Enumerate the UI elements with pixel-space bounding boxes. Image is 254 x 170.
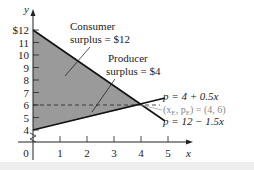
svg-text:5: 5 [165, 147, 171, 159]
y-axis-arrow-icon [31, 9, 36, 16]
svg-text:2: 2 [84, 147, 90, 159]
producer-surplus-label-line1: Producer [108, 52, 148, 64]
svg-text:$12: $12 [13, 24, 30, 36]
svg-text:5: 5 [24, 112, 30, 124]
svg-text:0: 0 [23, 147, 29, 159]
svg-text:6: 6 [24, 99, 30, 111]
consumer-surplus-label-line1: Consumer [70, 20, 116, 32]
svg-text:10: 10 [18, 49, 30, 61]
svg-text:8: 8 [24, 74, 30, 86]
axis-break-icon [30, 133, 36, 142]
svg-text:4: 4 [24, 124, 30, 136]
supply-equation-label: p = 4 + 0.5x [162, 90, 219, 102]
x-axis-arrow-icon [186, 140, 193, 145]
svg-text:7: 7 [24, 87, 30, 99]
svg-text:3: 3 [111, 147, 117, 159]
bottom-band [0, 162, 254, 170]
x-axis-label: x [185, 147, 191, 159]
producer-surplus-label-line2: surplus = $4 [106, 65, 161, 77]
x-tick-labels: 0 1 2 3 4 5 [23, 147, 171, 159]
y-axis-label: y [23, 3, 29, 15]
surplus-chart: $12 11 10 9 8 7 6 5 4 0 1 2 3 4 5 x y Co… [0, 0, 254, 170]
y-tick-labels: $12 11 10 9 8 7 6 5 4 [13, 24, 30, 136]
svg-text:4: 4 [138, 147, 144, 159]
x-ticks [60, 136, 168, 142]
svg-text:1: 1 [57, 147, 63, 159]
svg-text:11: 11 [18, 37, 29, 49]
svg-text:9: 9 [24, 62, 30, 74]
consumer-surplus-label-line2: surplus = $12 [70, 33, 130, 45]
